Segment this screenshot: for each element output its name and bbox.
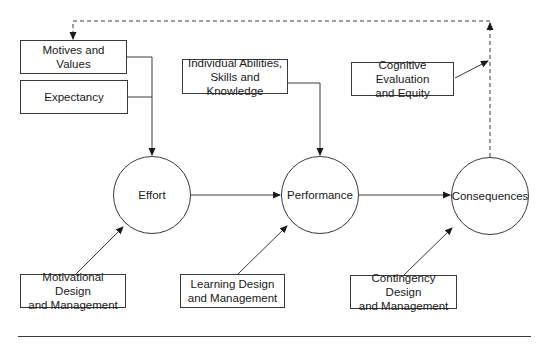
learning-design-box: Learning Design and Management — [180, 274, 285, 308]
effort-label: Effort — [138, 189, 165, 201]
performance-label: Performance — [287, 189, 353, 201]
motivational-design-label: Motivational Design and Management — [24, 270, 122, 312]
motivational-design-box: Motivational Design and Management — [20, 274, 126, 308]
individual-abilities-box: Individual Abilities, Skills and Knowled… — [182, 59, 288, 94]
motivational-to-effort-arrow — [76, 227, 123, 274]
individual-abilities-label: Individual Abilities, Skills and Knowled… — [186, 56, 284, 98]
motives-and-values-label: Motives and Values — [24, 43, 123, 71]
bottom-divider — [18, 336, 531, 337]
learning-to-performance-arrow — [238, 226, 287, 274]
consequences-label: Consequences — [452, 190, 529, 202]
consequences-node: Consequences — [451, 157, 529, 235]
contingency-design-box: Contingency Design and Management — [350, 275, 457, 309]
expectancy-label: Expectancy — [44, 90, 103, 104]
cognitive-evaluation-box: Cognitive Evaluation and Equity — [351, 62, 454, 96]
cognitive-to-feedback-arrow — [455, 61, 488, 78]
motives-expectancy-to-effort-arrow — [127, 57, 152, 155]
cognitive-evaluation-label: Cognitive Evaluation and Equity — [355, 58, 450, 100]
abilities-to-performance-arrow — [288, 83, 320, 155]
feedback-loop-dashed-line — [73, 21, 490, 39]
effort-node: Effort — [113, 156, 191, 234]
motives-and-values-box: Motives and Values — [20, 40, 127, 74]
contingency-design-label: Contingency Design and Management — [354, 271, 453, 313]
expectancy-box: Expectancy — [20, 80, 128, 114]
contingency-to-consequences-arrow — [404, 228, 452, 275]
performance-node: Performance — [281, 156, 359, 234]
learning-design-label: Learning Design and Management — [188, 277, 278, 305]
